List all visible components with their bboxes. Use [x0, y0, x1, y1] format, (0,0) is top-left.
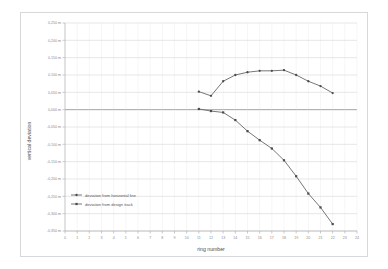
data-point-marker — [210, 95, 212, 97]
data-point-marker — [198, 108, 200, 110]
x-tick-label: 1 — [76, 236, 78, 240]
y-tick-label: -0,250 m — [47, 195, 61, 199]
y-tick-label: 0,150 m — [48, 56, 61, 60]
data-point-marker — [307, 192, 309, 194]
x-tick-label: 12 — [209, 236, 213, 240]
x-tick-label: 22 — [331, 236, 335, 240]
data-point-marker — [234, 74, 236, 76]
chart-plot-area: 0,250 m0,200 m0,150 m0,100 m0,050 m0,000… — [21, 13, 367, 256]
y-tick-label: -0,200 m — [47, 177, 61, 181]
data-point-marker — [283, 159, 285, 161]
x-tick-label: 15 — [246, 236, 250, 240]
x-axis-title: ring number — [197, 246, 225, 252]
data-point-marker — [319, 206, 321, 208]
x-tick-label: 13 — [221, 236, 225, 240]
x-tick-label: 18 — [282, 236, 286, 240]
data-point-marker — [246, 71, 248, 73]
data-point-marker — [210, 110, 212, 112]
data-point-marker — [222, 80, 224, 82]
data-point-marker — [307, 80, 309, 82]
data-point-marker — [332, 223, 334, 225]
y-tick-label: 0,000 m — [48, 108, 61, 112]
x-tick-label: 20 — [306, 236, 310, 240]
x-tick-label: 4 — [113, 236, 115, 240]
data-point-marker — [234, 119, 236, 121]
x-tick-label: 17 — [270, 236, 274, 240]
x-tick-label: 6 — [137, 236, 139, 240]
y-tick-label: -0,150 m — [47, 160, 61, 164]
legend-marker — [75, 203, 77, 205]
x-tick-label: 24 — [355, 236, 359, 240]
series-line-0 — [199, 70, 333, 96]
data-point-marker — [271, 147, 273, 149]
x-axis-tick-labels: 0123456789101112131415161718192021222324 — [64, 236, 359, 240]
x-tick-label: 7 — [149, 236, 151, 240]
data-point-marker — [259, 139, 261, 141]
y-tick-label: -0,300 m — [47, 212, 61, 216]
chart-legend: deviation from horizontal linedeviation … — [71, 193, 137, 207]
data-point-marker — [271, 70, 273, 72]
y-tick-label: -0,100 m — [47, 143, 61, 147]
data-point-marker — [283, 69, 285, 71]
y-tick-label: 0,250 m — [48, 21, 61, 25]
y-tick-label: 0,050 m — [48, 91, 61, 95]
x-tick-label: 3 — [101, 236, 103, 240]
legend-marker — [75, 194, 77, 196]
chart-figure: 0,250 m0,200 m0,150 m0,100 m0,050 m0,000… — [20, 12, 368, 257]
x-tick-label: 14 — [233, 236, 237, 240]
x-tick-label: 11 — [197, 236, 201, 240]
x-tick-label: 9 — [174, 236, 176, 240]
y-gridlines — [63, 23, 358, 231]
y-tick-label: -0,350 m — [47, 229, 61, 233]
data-point-marker — [198, 90, 200, 92]
x-tick-label: 10 — [185, 236, 189, 240]
y-axis-tick-labels: 0,250 m0,200 m0,150 m0,100 m0,050 m0,000… — [47, 21, 61, 233]
x-tick-label: 2 — [88, 236, 90, 240]
y-axis-title: vertical deviation — [26, 122, 32, 161]
x-tick-label: 0 — [64, 236, 66, 240]
series-line-1 — [199, 109, 333, 224]
data-point-marker — [259, 70, 261, 72]
data-point-marker — [319, 85, 321, 87]
y-tick-label: -0,050 m — [47, 125, 61, 129]
y-tick-label: 0,100 m — [48, 73, 61, 77]
data-point-marker — [295, 74, 297, 76]
data-point-marker — [332, 92, 334, 94]
data-point-marker — [246, 130, 248, 132]
data-point-marker — [222, 111, 224, 113]
x-tick-label: 19 — [294, 236, 298, 240]
x-tick-label: 23 — [343, 236, 347, 240]
x-tick-label: 5 — [125, 236, 127, 240]
y-tick-label: 0,200 m — [48, 39, 61, 43]
legend-label: deviation from horizontal line — [85, 193, 137, 198]
data-point-marker — [295, 175, 297, 177]
x-tick-label: 16 — [258, 236, 262, 240]
legend-label: deviation from design track — [85, 202, 133, 207]
x-tick-label: 21 — [319, 236, 323, 240]
x-tick-label: 8 — [161, 236, 163, 240]
